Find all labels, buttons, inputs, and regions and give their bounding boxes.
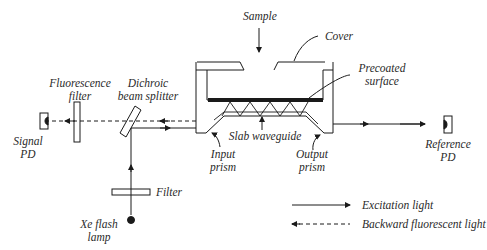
fluorescence-filter bbox=[74, 102, 80, 142]
xe-flash-lamp bbox=[128, 217, 135, 224]
label-dichroic: Dichroicbeam splitter bbox=[110, 77, 186, 103]
label-sample: Sample bbox=[239, 10, 281, 23]
label-input-prism: Inputprism bbox=[205, 148, 241, 174]
label-xe-lamp: Xe flashlamp bbox=[74, 218, 124, 244]
label-reference-pd: ReferencePD bbox=[418, 138, 478, 164]
precoated-surface bbox=[208, 98, 323, 102]
label-precoated: Precoatedsurface bbox=[352, 62, 412, 88]
legend-excitation: Excitation light bbox=[362, 199, 433, 212]
label-output-prism: Outputprism bbox=[290, 148, 334, 174]
label-slab-waveguide: Slab waveguide bbox=[225, 130, 305, 143]
label-filter: Filter bbox=[154, 186, 184, 199]
cover-right bbox=[274, 62, 325, 70]
legend-fluorescent: Backward fluorescent light bbox=[362, 218, 486, 231]
label-fluorescence-filter: Fluorescencefilter bbox=[40, 77, 120, 103]
optical-diagram bbox=[0, 0, 487, 250]
zigzag-rays bbox=[222, 102, 308, 116]
label-cover: Cover bbox=[318, 30, 360, 43]
label-signal-pd: SignalPD bbox=[8, 135, 48, 161]
cover-left bbox=[197, 62, 244, 70]
cell-body bbox=[196, 62, 333, 133]
